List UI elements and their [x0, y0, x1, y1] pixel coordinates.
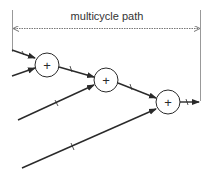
- adder-2: +: [94, 68, 118, 92]
- wire-adder1-to-adder2: [59, 67, 94, 77]
- input-wire-1b: [12, 68, 35, 76]
- input-wire-3: [22, 109, 156, 168]
- adder-3: +: [156, 90, 180, 114]
- plus-icon: +: [43, 58, 51, 73]
- adder-1: +: [35, 53, 59, 77]
- pipeline-diagram: + + +: [0, 0, 210, 176]
- plus-icon: +: [164, 95, 172, 110]
- plus-icon: +: [102, 73, 110, 88]
- wire-adder2-to-adder3: [118, 83, 156, 98]
- register-tick: [130, 84, 132, 90]
